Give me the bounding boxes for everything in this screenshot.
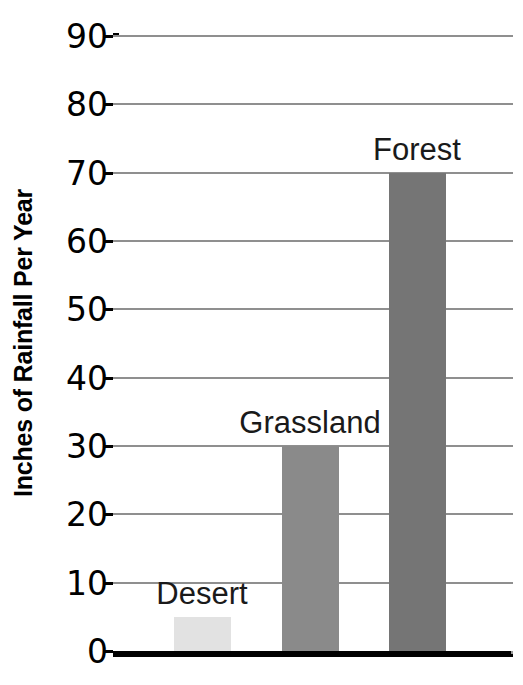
bar-label-forest: Forest <box>373 134 461 165</box>
y-axis-tick-label: 0 <box>46 635 108 668</box>
bar-grassland[interactable] <box>282 446 339 651</box>
gridline <box>113 377 513 379</box>
y-axis-tick-label: 10 <box>46 566 108 599</box>
y-axis-tick-mark <box>104 377 113 380</box>
y-axis-tick-label: 60 <box>46 225 108 258</box>
y-axis-tick-mark <box>104 582 113 585</box>
gridline <box>113 103 513 105</box>
y-axis-tick-label: 50 <box>46 293 108 326</box>
y-axis-tick-mark <box>104 650 113 653</box>
bar-label-grassland: Grassland <box>239 407 380 438</box>
x-axis-line <box>113 651 513 657</box>
y-axis-tick-label: 20 <box>46 498 108 531</box>
y-axis-tick-label: 40 <box>46 361 108 394</box>
plot-area: DesertGrasslandForest <box>113 36 513 651</box>
y-axis-tick-mark <box>104 103 113 106</box>
y-axis-tick-label: 30 <box>46 430 108 463</box>
y-axis-tick-mark <box>104 308 113 311</box>
gridline <box>113 308 513 310</box>
y-axis-tick-mark <box>104 445 113 448</box>
bar-forest[interactable] <box>389 173 446 651</box>
y-axis-tick-mark <box>104 513 113 516</box>
y-axis-tick-mark <box>104 240 113 243</box>
bar-desert[interactable] <box>174 617 231 651</box>
y-axis-title: Inches of Rainfall Per Year <box>0 0 46 685</box>
bar-chart: Inches of Rainfall Per Year 010203040506… <box>0 0 523 685</box>
bar-label-desert: Desert <box>156 578 247 609</box>
gridline <box>113 240 513 242</box>
gridline <box>113 172 513 174</box>
y-axis-tick-labels: 0102030405060708090 <box>46 0 108 685</box>
y-axis-tick-label: 90 <box>46 20 108 53</box>
y-axis-tick-label: 70 <box>46 156 108 189</box>
y-axis-tick-mark <box>104 172 113 175</box>
y-axis-tick-mark <box>104 35 113 38</box>
gridline <box>113 35 513 37</box>
y-axis-tick-label: 80 <box>46 88 108 121</box>
y-axis-title-text: Inches of Rainfall Per Year <box>9 188 38 496</box>
